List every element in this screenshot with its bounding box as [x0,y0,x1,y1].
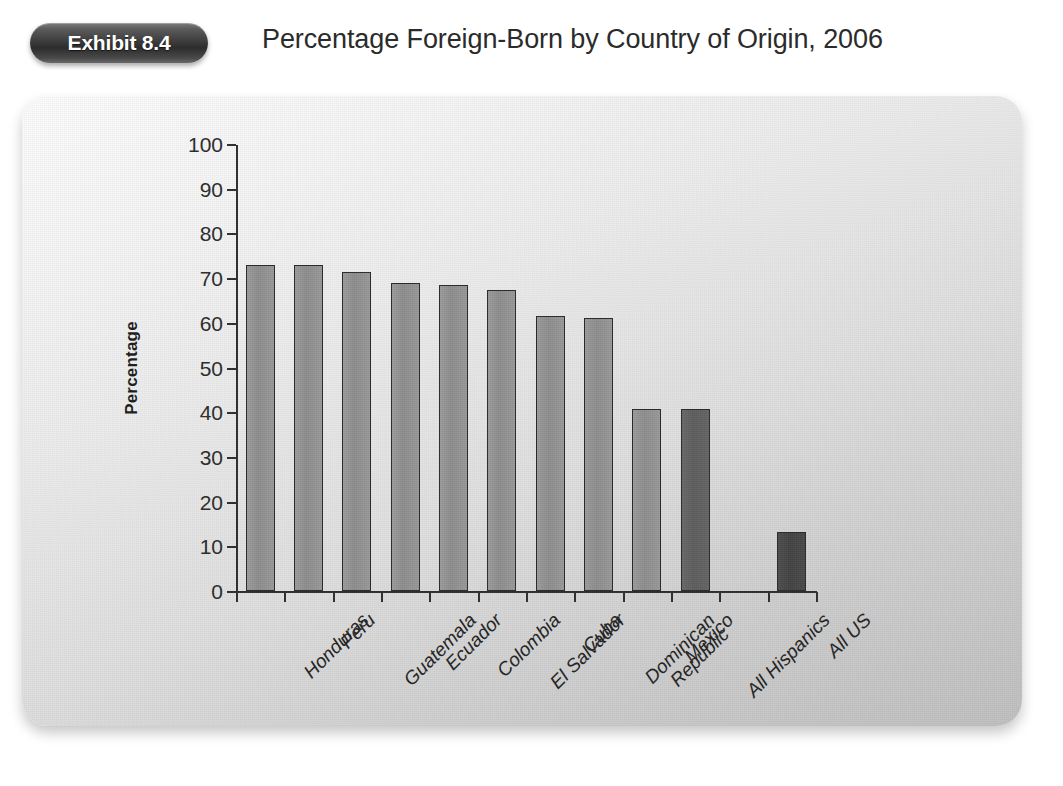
y-axis-line [236,145,238,593]
bar-guatemala [342,272,371,591]
x-axis-tick [284,592,286,602]
y-axis-tick [227,189,236,191]
x-axis-tick [478,592,480,602]
y-axis-tick-label: 40 [200,401,223,425]
chart-panel: Percentage 0102030405060708090100 Hondur… [22,96,1022,726]
y-axis-tick-label: 50 [200,356,223,380]
y-axis-tick-label: 60 [200,311,223,335]
x-axis-label: All US [823,610,875,662]
y-axis-tick [227,233,236,235]
chart-title: Percentage Foreign-Born by Country of Or… [262,24,883,55]
x-axis-tick [719,592,721,602]
y-axis-tick [227,144,236,146]
y-axis-tick [227,412,236,414]
bar-mexico [632,409,661,591]
y-axis-tick [227,502,236,504]
bar-peru [294,265,323,591]
bar-all-hispanics [681,409,710,591]
exhibit-header: Exhibit 8.4 Percentage Foreign-Born by C… [0,0,1063,92]
bar-dominican-republic [584,318,613,591]
y-axis-tick [227,278,236,280]
y-axis-tick [227,546,236,548]
x-axis-tick [236,592,238,602]
y-axis-tick-label: 0 [211,580,223,604]
plot-area: Percentage 0102030405060708090100 Hondur… [236,145,816,592]
y-axis-tick [227,457,236,459]
y-axis-tick-label: 30 [200,445,223,469]
x-axis-tick [526,592,528,602]
x-axis-tick [333,592,335,602]
y-axis-tick [227,323,236,325]
exhibit-number-badge: Exhibit 8.4 [30,23,208,63]
y-axis-tick-label: 10 [200,535,223,559]
bar-el-salvador [487,290,516,591]
y-axis-tick-label: 80 [200,222,223,246]
y-axis-tick-label: 70 [200,267,223,291]
exhibit-badge-label: Exhibit 8.4 [68,31,171,55]
x-axis-tick [768,592,770,602]
x-axis-tick [381,592,383,602]
bar-ecuador [391,283,420,591]
bar-all-us [777,532,806,591]
x-axis-tick [671,592,673,602]
y-axis-tick [227,591,236,593]
bar-cuba [536,316,565,591]
x-axis-tick [429,592,431,602]
bar-colombia [439,285,468,591]
y-axis-title: Percentage [122,321,142,415]
y-axis-tick-label: 90 [200,177,223,201]
y-axis-tick-label: 100 [188,133,223,157]
x-axis-label: All Hispanics [743,610,834,701]
x-axis-tick [816,592,818,602]
x-axis-tick [623,592,625,602]
y-axis-tick-label: 20 [200,490,223,514]
x-axis-tick [574,592,576,602]
y-axis-tick [227,368,236,370]
bar-honduras [246,265,275,591]
